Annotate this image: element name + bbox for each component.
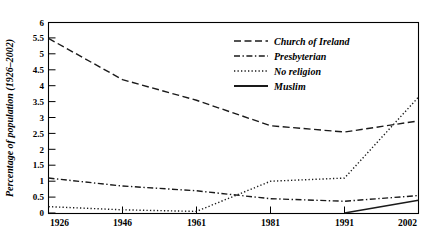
x-tick-label: 1926 [50,218,69,228]
y-tick-label: 1 [40,176,45,186]
x-tick-label: 1946 [113,218,132,228]
y-tick-label: 0.5 [33,192,45,202]
y-tick-label: 1.5 [33,160,45,170]
y-tick-label: 4 [40,81,45,91]
y-tick-label: 3.5 [33,97,45,107]
y-tick-label: 3 [40,113,45,123]
y-tick-label: 6 [40,18,45,28]
chart-background [0,0,439,247]
x-tick-label: 2002 [398,218,417,228]
legend-label: Presbyterian [274,51,327,62]
y-tick-label: 5.5 [33,33,45,43]
x-tick-label: 1961 [187,218,206,228]
y-tick-label: 5 [40,49,45,59]
legend-label: No religion [273,66,321,77]
y-tick-label: 4.5 [33,65,45,75]
x-tick-label: 1981 [261,218,280,228]
legend-label: Church of Ireland [274,36,351,47]
x-tick-label: 1991 [335,218,354,228]
chart-figure: Percentage of population (1926–2002) 0 0… [0,0,439,247]
legend-label: Muslim [273,81,306,92]
y-tick-label: 0 [40,208,45,218]
line-chart: Percentage of population (1926–2002) 0 0… [0,0,439,247]
y-axis-title: Percentage of population (1926–2002) [4,39,16,197]
y-tick-label: 2 [40,145,45,155]
y-tick-label: 2.5 [33,129,45,139]
